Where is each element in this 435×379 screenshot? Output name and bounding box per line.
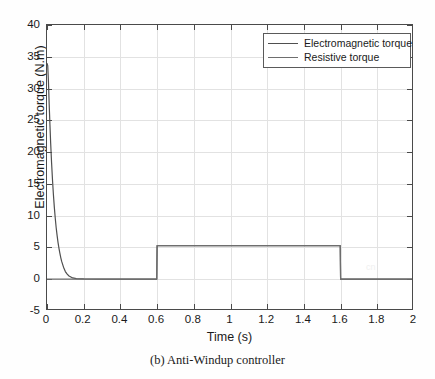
y-tick-label: 35 (27, 50, 40, 62)
series-line (47, 63, 413, 279)
figure-caption: (b) Anti-Windup controller (0, 353, 435, 368)
x-tick-label: 0 (43, 313, 49, 325)
x-tick-label: 0.4 (111, 313, 127, 325)
y-tick-label: 10 (27, 209, 40, 221)
scan-artifact: cn (366, 262, 376, 272)
x-axis-label: Time (s) (46, 330, 413, 344)
x-tick-label: 1.2 (258, 313, 274, 325)
y-tick-label: 20 (27, 145, 40, 157)
y-tick-label: 15 (27, 177, 40, 189)
x-tick-label: 1.4 (295, 313, 311, 325)
series-line (47, 246, 413, 280)
y-tick-label: -5 (30, 304, 40, 316)
figure-container: Electromagnetic torque (N.m) -5051015202… (0, 0, 435, 379)
x-tick-label: 1 (226, 313, 232, 325)
legend-box: Electromagnetic torque Resistive torque (263, 33, 411, 68)
y-tick-label: 30 (27, 82, 40, 94)
legend-label-resistive-torque: Resistive torque (304, 51, 379, 63)
legend-item: Electromagnetic torque (264, 36, 410, 50)
x-tick-label: 2 (410, 313, 416, 325)
y-axis-label: Electromagnetic torque (N.m) (33, 0, 47, 267)
y-tick-label: 5 (34, 240, 40, 252)
x-tick-label: 1.8 (368, 313, 384, 325)
y-tick-label: 25 (27, 113, 40, 125)
legend-color-swatch-resistive-torque (268, 57, 298, 58)
y-tick-label: 0 (34, 272, 40, 284)
x-tick-label: 0.8 (185, 313, 201, 325)
x-tick-label: 1.6 (332, 313, 348, 325)
x-tick-label: 0.6 (148, 313, 164, 325)
legend-label-electromagnetic-torque: Electromagnetic torque (304, 37, 412, 49)
legend-item: Resistive torque (264, 50, 410, 64)
legend-color-swatch-electromagnetic-torque (268, 43, 298, 44)
y-tick-label: 40 (27, 18, 40, 30)
x-tick-label: 0.2 (75, 313, 91, 325)
